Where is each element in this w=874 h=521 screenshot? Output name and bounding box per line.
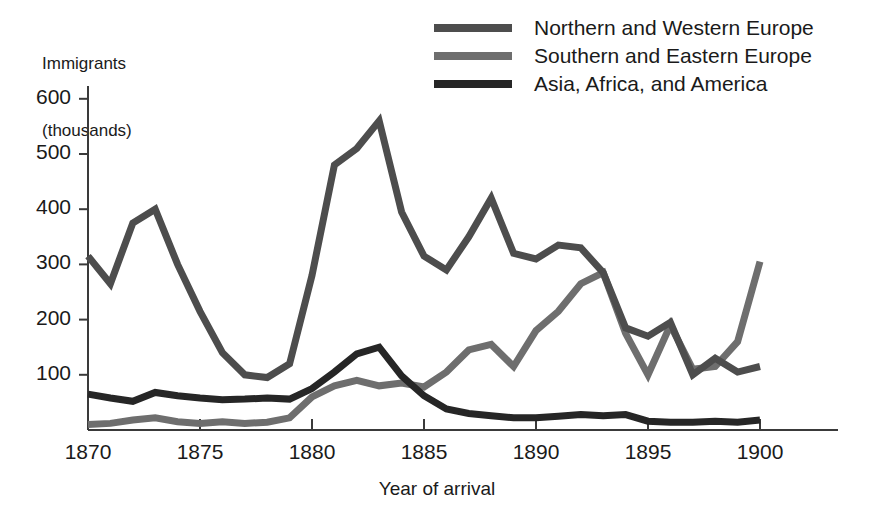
- x-axis-tick-label: 1890: [496, 440, 576, 464]
- y-axis-tick-label: 400: [13, 195, 71, 219]
- legend-item-label: Southern and Eastern Europe: [534, 44, 812, 68]
- x-axis-tick-label: 1895: [608, 440, 688, 464]
- legend-swatch-icon: [434, 80, 512, 88]
- y-axis-tick-label: 500: [13, 140, 71, 164]
- legend-item[interactable]: Asia, Africa, and America: [434, 70, 814, 98]
- x-axis-tick-label: 1875: [160, 440, 240, 464]
- data-series-line: [88, 121, 760, 378]
- legend-item-label: Northern and Western Europe: [534, 16, 814, 40]
- legend-swatch-icon: [434, 24, 512, 32]
- y-axis-ticks: [79, 99, 88, 375]
- x-axis-title: Year of arrival: [0, 478, 874, 500]
- x-axis-tick-label: 1900: [720, 440, 800, 464]
- data-series-group: [88, 121, 760, 425]
- x-axis-tick-label: 1880: [272, 440, 352, 464]
- y-axis-tick-label: 300: [13, 250, 71, 274]
- y-axis-tick-label: 100: [13, 361, 71, 385]
- y-axis-tick-label: 600: [13, 85, 71, 109]
- axis-lines: [88, 86, 838, 430]
- legend-swatch-icon: [434, 52, 512, 60]
- x-axis-tick-label: 1885: [384, 440, 464, 464]
- legend-item[interactable]: Northern and Western Europe: [434, 14, 814, 42]
- y-axis-tick-label: 200: [13, 306, 71, 330]
- legend-item[interactable]: Southern and Eastern Europe: [434, 42, 814, 70]
- immigration-line-chart: Immigrants (thousands) 10020030040050060…: [0, 0, 874, 521]
- x-axis-tick-label: 1870: [48, 440, 128, 464]
- legend-item-label: Asia, Africa, and America: [534, 72, 767, 96]
- chart-legend: Northern and Western EuropeSouthern and …: [434, 14, 814, 98]
